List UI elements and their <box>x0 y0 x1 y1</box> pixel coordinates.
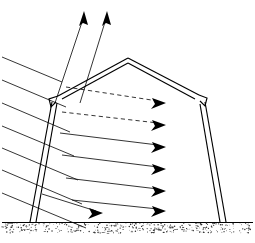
soil-dot <box>233 228 234 229</box>
soil-dash <box>26 229 29 230</box>
soil-dot <box>248 229 249 230</box>
soil-dot <box>244 229 245 230</box>
soil-dash <box>75 231 76 232</box>
soil-dash <box>202 229 204 230</box>
soil-dot <box>143 223 144 224</box>
soil-dot <box>29 232 30 233</box>
soil-dot <box>36 230 37 231</box>
soil-dot <box>33 223 34 224</box>
soil-dash <box>5 224 6 225</box>
soil-dot <box>7 223 8 224</box>
soil-dot <box>200 231 201 232</box>
soil-dot <box>173 231 174 232</box>
soil-dash <box>203 227 206 228</box>
soil-dot <box>214 223 215 224</box>
soil-dot <box>149 230 150 231</box>
soil-dot <box>132 223 133 224</box>
soil-dot <box>38 223 39 224</box>
soil-dot <box>126 223 127 224</box>
interior-arrowhead-5 <box>151 186 166 197</box>
soil-dot <box>221 232 222 233</box>
soil-dot <box>120 232 121 233</box>
soil-dot <box>181 225 182 226</box>
soil-dot <box>6 227 7 228</box>
soil-dot <box>24 230 25 231</box>
ground-group <box>1 222 253 233</box>
soil-dash <box>118 233 119 234</box>
soil-dot <box>64 224 65 225</box>
soil-dot <box>102 227 103 228</box>
wall-right-inner <box>200 104 220 222</box>
soil-dash <box>174 229 177 230</box>
soil-dot <box>68 226 69 227</box>
soil-dot <box>226 224 227 225</box>
soil-dot <box>113 231 114 232</box>
soil-dot <box>153 230 154 231</box>
soil-dash <box>11 227 12 228</box>
soil-dot <box>182 227 183 228</box>
soil-dot <box>139 230 140 231</box>
soil-dash <box>226 225 227 226</box>
soil-dash <box>21 230 23 231</box>
soil-dot <box>242 228 243 229</box>
soil-dot <box>12 231 13 232</box>
soil-dot <box>117 230 118 231</box>
soil-dash <box>74 223 76 224</box>
soil-dot <box>119 227 120 228</box>
incoming-ray-4 <box>2 126 74 156</box>
soil-dot <box>49 223 50 224</box>
soil-dot <box>120 225 121 226</box>
soil-dot <box>206 223 207 224</box>
soil-dot <box>149 224 150 225</box>
soil-dash <box>11 223 13 224</box>
soil-dash <box>26 225 27 226</box>
soil-dot <box>117 223 118 224</box>
soil-dot <box>186 228 187 229</box>
soil-dot <box>33 230 34 231</box>
soil-dot <box>207 230 208 231</box>
reflected-ray-2 <box>80 22 105 103</box>
soil-dash <box>106 227 109 228</box>
soil-dot <box>169 227 170 228</box>
soil-dot <box>181 229 183 231</box>
soil-dot <box>147 231 148 232</box>
soil-dot <box>220 224 221 225</box>
soil-dot <box>55 228 56 229</box>
soil-dot <box>225 228 226 229</box>
soil-dot <box>135 224 136 225</box>
soil-dot <box>170 231 171 232</box>
soil-dash <box>122 229 124 230</box>
soil-dot <box>201 224 202 225</box>
soil-dash <box>84 224 86 225</box>
soil-dot <box>29 228 30 229</box>
soil-dash <box>76 229 79 230</box>
soil-dot <box>98 232 99 233</box>
soil-dot <box>139 222 140 223</box>
soil-dash <box>35 224 37 225</box>
soil-dot <box>221 224 223 226</box>
soil-dot <box>134 225 135 226</box>
soil-dash <box>142 225 144 226</box>
soil-dot <box>104 227 105 228</box>
soil-dot <box>210 233 211 234</box>
soil-dot <box>196 228 197 229</box>
soil-dot <box>233 231 234 232</box>
soil-dot <box>21 229 22 230</box>
interior-rays-group <box>60 87 158 209</box>
soil-dash <box>71 232 73 233</box>
soil-dash <box>171 227 173 228</box>
soil-dot <box>117 229 118 230</box>
soil-dot <box>161 225 162 226</box>
wall-right-outer <box>205 102 226 222</box>
soil-dot <box>115 230 116 231</box>
soil-dot <box>163 232 164 233</box>
soil-dot <box>149 224 150 225</box>
soil-dash <box>120 226 122 227</box>
interior-arrowhead-6 <box>151 206 166 217</box>
soil-dash <box>154 227 155 228</box>
soil-dot <box>231 232 232 233</box>
soil-dot <box>187 229 188 230</box>
soil-dot <box>147 232 148 233</box>
interior-arrowhead-2 <box>151 120 166 131</box>
soil-dash <box>195 226 198 227</box>
